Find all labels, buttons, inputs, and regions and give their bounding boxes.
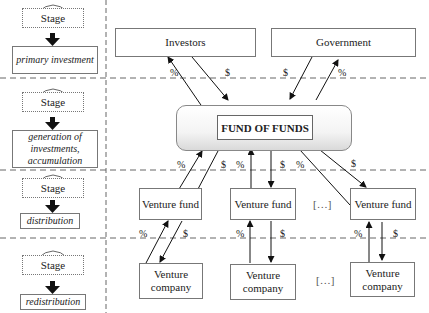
dollar-symbol: $ bbox=[280, 160, 285, 170]
venture-fund-1: Venture fund bbox=[139, 188, 202, 220]
fund-of-funds-label: FUND OF FUNDS bbox=[217, 115, 313, 140]
more-funds-ellipsis: […] bbox=[313, 198, 331, 210]
stage-distribution: distribution bbox=[20, 213, 80, 229]
venture-fund-2: Venture fund bbox=[230, 188, 296, 220]
percent-symbol: % bbox=[177, 160, 185, 170]
fund-of-funds-box: FUND OF FUNDS bbox=[176, 105, 352, 151]
dollar-symbol: $ bbox=[283, 68, 288, 78]
percent-symbol: % bbox=[296, 160, 304, 170]
stage-generation-accumulation: generation of investments, accumulation bbox=[12, 130, 98, 168]
venture-company-3: Venture company bbox=[350, 262, 415, 297]
percent-symbol: % bbox=[236, 160, 244, 170]
dollar-symbol: $ bbox=[225, 68, 230, 78]
stage-redistribution: redistribution bbox=[20, 294, 86, 310]
venture-company-1: Venture company bbox=[139, 263, 203, 299]
percent-symbol: % bbox=[170, 68, 178, 78]
stage-label-1: Stage bbox=[22, 8, 84, 28]
percent-symbol: % bbox=[338, 68, 346, 78]
percent-symbol: % bbox=[139, 229, 147, 239]
stage-primary-investment: primary investment bbox=[12, 46, 98, 74]
stage-label-2: Stage bbox=[22, 92, 84, 112]
percent-symbol: % bbox=[354, 229, 362, 239]
stage-label-3: Stage bbox=[22, 178, 84, 198]
venture-fund-3: Venture fund bbox=[350, 188, 416, 220]
percent-symbol: % bbox=[236, 229, 244, 239]
dollar-symbol: $ bbox=[280, 229, 285, 239]
dollar-symbol: $ bbox=[221, 160, 226, 170]
stage-label-4: Stage bbox=[22, 255, 84, 275]
venture-company-2: Venture company bbox=[230, 264, 296, 300]
dollar-symbol: $ bbox=[393, 229, 398, 239]
dollar-symbol: $ bbox=[351, 159, 356, 169]
more-companies-ellipsis: […] bbox=[316, 274, 334, 286]
government-box: Government bbox=[271, 28, 416, 57]
dollar-symbol: $ bbox=[183, 229, 188, 239]
investors-box: Investors bbox=[115, 28, 256, 57]
